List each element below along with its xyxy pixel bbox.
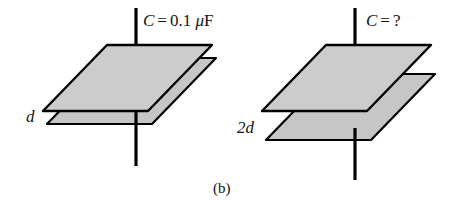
left-capacitance-symbol: C [143, 11, 154, 30]
right-capacitance-operator: = [377, 11, 393, 30]
capacitor-figure: C=0.1 μF C=? d 2d (b) [0, 0, 453, 210]
right-capacitor-value-label: C=? [366, 12, 400, 29]
right-plate-separation-label: 2d [237, 119, 254, 136]
capacitor-right [262, 8, 435, 180]
left-capacitor-value-label: C=0.1 μF [143, 12, 213, 29]
right-capacitance-value: ? [393, 11, 401, 30]
micro-symbol: μ [195, 11, 204, 30]
farad-unit: F [204, 11, 213, 30]
left-plate-separation-label: d [26, 108, 35, 125]
right-capacitance-symbol: C [366, 11, 377, 30]
capacitor-left [43, 8, 216, 166]
left-capacitance-value: 0.1 [170, 11, 191, 30]
capacitor-diagram-svg [0, 0, 453, 210]
left-capacitance-operator: = [154, 11, 170, 30]
figure-caption: (b) [213, 181, 231, 196]
